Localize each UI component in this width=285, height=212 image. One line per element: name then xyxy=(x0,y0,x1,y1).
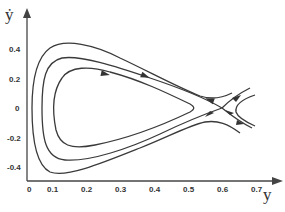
x-tick: 0.7 xyxy=(251,185,263,194)
x-tick: 0.4 xyxy=(149,185,161,194)
arrow-icon xyxy=(140,72,151,81)
separatrix-loop xyxy=(42,58,222,161)
arrow-icon xyxy=(225,110,234,115)
y-axis-label: ẏ xyxy=(5,5,14,24)
x-axis-arrow-icon xyxy=(272,177,283,185)
x-tick: 0.2 xyxy=(81,185,93,194)
x-axis-label: y xyxy=(263,185,272,204)
y-ticks: 0.4 0.2 0 -0.2 -0.4 xyxy=(7,45,21,172)
x-tick: 0.1 xyxy=(47,185,59,194)
axes xyxy=(23,8,283,185)
x-tick: 0.6 xyxy=(217,185,229,194)
y-tick: 0 xyxy=(15,104,20,113)
inner-closed-orbit xyxy=(54,68,194,147)
phase-portrait-figure: ẏ y 0.4 0.2 0 -0.2 -0.4 0 0.1 0.2 0.3 0.… xyxy=(0,0,285,212)
x-tick: 0.3 xyxy=(115,185,127,194)
y-axis-arrow-icon xyxy=(23,8,31,18)
y-tick: -0.2 xyxy=(7,134,21,143)
x-tick: 0 xyxy=(27,185,32,194)
y-tick: 0.2 xyxy=(9,75,21,84)
x-tick: 0.5 xyxy=(183,185,195,194)
y-tick: -0.4 xyxy=(7,163,21,172)
y-tick: 0.4 xyxy=(9,45,21,54)
x-ticks: 0 0.1 0.2 0.3 0.4 0.5 0.6 0.7 xyxy=(27,185,263,194)
outer-orbit-lower xyxy=(32,108,240,173)
direction-arrows xyxy=(100,70,244,125)
